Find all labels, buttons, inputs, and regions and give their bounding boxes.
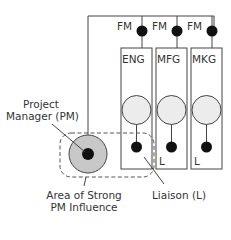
fm-mfg-dot xyxy=(172,26,183,37)
liaison-mark-mfg: L xyxy=(159,155,165,167)
dept-eng-member xyxy=(122,96,151,125)
dept-mkg-member xyxy=(192,96,221,125)
area-label-line2: PM Influence xyxy=(44,201,124,213)
dept-mfg-member xyxy=(157,96,186,125)
fm-label-mfg: FM xyxy=(152,20,167,32)
pm-label-line2: Manager (PM) xyxy=(6,110,76,122)
liaison-label: Liaison (L) xyxy=(152,189,206,201)
dept-label-eng: ENG xyxy=(122,53,145,65)
fm-eng-dot xyxy=(137,26,148,37)
dept-label-mkg: MKG xyxy=(192,53,216,65)
pm-label-line1: Project xyxy=(6,98,76,110)
fm-label-eng: FM xyxy=(117,20,132,32)
fm-mkg-dot xyxy=(207,26,218,37)
liaison-mark-mkg: L xyxy=(194,155,200,167)
liaison-mkg-dot xyxy=(201,142,212,153)
dept-label-mfg: MFG xyxy=(157,53,180,65)
fm-label-mkg: FM xyxy=(187,20,202,32)
liaison-eng-dot xyxy=(131,142,142,153)
area-pointer xyxy=(84,177,86,186)
pm-dot xyxy=(82,148,94,160)
area-label-line1: Area of Strong xyxy=(44,189,124,201)
liaison-mfg-dot xyxy=(166,142,177,153)
